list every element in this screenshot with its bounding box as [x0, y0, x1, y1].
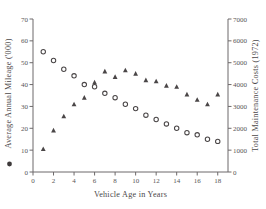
data-point-mileage: [185, 130, 189, 134]
x-axis-tick-label: 10: [132, 177, 140, 185]
data-point-cost: [205, 102, 210, 107]
data-point-cost: [215, 92, 220, 97]
mileage-legend-marker-icon: [7, 162, 12, 167]
data-point-mileage: [123, 102, 127, 106]
right-axis-tick-label: 6000: [233, 37, 248, 45]
data-point-cost: [123, 68, 128, 73]
data-point-mileage: [103, 91, 107, 95]
data-point-cost: [51, 128, 56, 133]
left-axis-tick-label: 0: [25, 169, 29, 177]
x-axis-tick-label: 16: [194, 177, 202, 185]
data-point-mileage: [113, 95, 117, 99]
left-axis: 010203040506070: [21, 16, 33, 177]
data-point-cost: [174, 84, 179, 89]
x-axis-tick-label: 2: [52, 177, 56, 185]
y-right-axis-title: Total Maintenance Costs (1972): [251, 39, 260, 152]
right-axis-tick-label: 2000: [233, 125, 248, 133]
x-axis-tick-label: 14: [173, 177, 181, 185]
left-axis-tick-label: 20: [21, 125, 29, 133]
right-axis-tick-label: 1000: [233, 147, 248, 155]
data-point-cost: [195, 97, 200, 102]
right-axis-tick-label: 7000: [233, 16, 248, 24]
right-axis-tick-label: 3000: [233, 103, 248, 111]
data-point-mileage: [144, 113, 148, 117]
data-point-mileage: [51, 58, 55, 62]
x-axis-tick-label: 18: [214, 177, 222, 185]
data-point-cost: [41, 146, 46, 151]
x-axis: 024681012141618: [31, 172, 228, 185]
x-axis-tick-label: 6: [93, 177, 97, 185]
data-point-mileage: [62, 67, 66, 71]
left-axis-tick-label: 10: [21, 147, 29, 155]
left-axis-tick-label: 30: [21, 103, 29, 111]
data-point-mileage: [174, 126, 178, 130]
data-point-mileage: [82, 82, 86, 86]
right-axis: 01000200030004000500060007000: [228, 16, 248, 177]
chart-canvas: 010203040506070 010002000300040005000600…: [0, 0, 266, 209]
right-axis-tick-label: 4000: [233, 81, 248, 89]
data-point-cost: [102, 69, 107, 74]
data-point-cost: [143, 78, 148, 83]
data-point-cost: [113, 74, 118, 79]
data-point-mileage: [133, 106, 137, 110]
data-point-mileage: [216, 139, 220, 143]
data-point-mileage: [154, 117, 158, 121]
data-point-cost: [185, 92, 190, 97]
data-series: [41, 50, 220, 151]
scatter-chart: 010203040506070 010002000300040005000600…: [0, 0, 266, 209]
data-point-mileage: [41, 50, 45, 54]
x-axis-tick-label: 8: [113, 177, 117, 185]
data-point-cost: [154, 79, 159, 84]
right-axis-tick-label: 0: [233, 169, 237, 177]
data-point-cost: [82, 95, 87, 100]
left-axis-tick-label: 60: [21, 37, 29, 45]
x-axis-tick-label: 4: [72, 177, 76, 185]
right-axis-tick-label: 5000: [233, 59, 248, 67]
left-axis-tick-label: 50: [21, 59, 29, 67]
y-left-axis-title: Average Annual Mileage ('000): [4, 38, 13, 148]
data-point-mileage: [72, 74, 76, 78]
data-point-mileage: [164, 122, 168, 126]
data-point-mileage: [195, 133, 199, 137]
x-axis-tick-label: 0: [31, 177, 35, 185]
left-axis-tick-label: 70: [21, 16, 29, 24]
data-point-cost: [72, 102, 77, 107]
x-axis-title: Vehicle Age in Years: [94, 190, 167, 199]
data-point-cost: [164, 83, 169, 88]
data-point-mileage: [92, 85, 96, 89]
data-point-cost: [133, 71, 138, 76]
data-point-cost: [92, 80, 97, 85]
data-point-cost: [61, 114, 66, 119]
left-axis-tick-label: 40: [21, 81, 29, 89]
x-axis-tick-label: 12: [153, 177, 161, 185]
data-point-mileage: [205, 137, 209, 141]
